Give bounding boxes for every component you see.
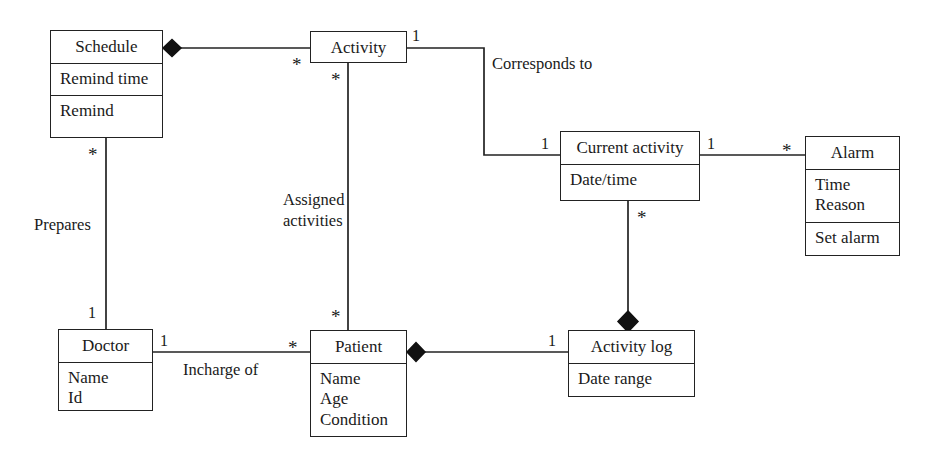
multiplicity-current-activity-right: 1 xyxy=(707,136,715,152)
class-box-schedule[interactable]: Schedule Remind time Remind xyxy=(50,30,163,138)
class-box-doctor[interactable]: Doctor Name Id xyxy=(58,329,153,411)
class-operations-alarm: Set alarm xyxy=(806,222,899,254)
multiplicity-activity-bottom: * xyxy=(331,70,341,89)
class-name-activity-log: Activity log xyxy=(569,331,694,363)
class-name-patient: Patient xyxy=(311,331,406,363)
multiplicity-doctor-top: 1 xyxy=(88,305,96,321)
composition-diamond-patient xyxy=(407,343,425,362)
attribute-age: Age xyxy=(320,389,398,409)
class-attributes-schedule: Remind time xyxy=(51,63,162,95)
attribute-id: Id xyxy=(68,388,144,408)
association-label-corresponds-to: Corresponds to xyxy=(492,54,592,73)
class-name-schedule: Schedule xyxy=(51,31,162,63)
multiplicity-activity-to-schedule: * xyxy=(292,55,302,74)
multiplicity-patient-top: * xyxy=(331,307,341,326)
attribute-remind-time: Remind time xyxy=(60,69,154,89)
multiplicity-schedule-bottom: * xyxy=(88,145,98,164)
class-attributes-patient: Name Age Condition xyxy=(311,363,406,436)
class-box-activity-log[interactable]: Activity log Date range xyxy=(568,330,695,397)
class-box-alarm[interactable]: Alarm Time Reason Set alarm xyxy=(805,136,900,256)
class-attributes-activity-log: Date range xyxy=(569,363,694,395)
multiplicity-current-activity-bottom: * xyxy=(637,208,647,227)
attribute-condition: Condition xyxy=(320,410,398,430)
class-operations-schedule: Remind xyxy=(51,95,162,127)
attribute-date-range: Date range xyxy=(578,369,686,389)
operation-remind: Remind xyxy=(60,101,154,121)
multiplicity-activity-right: 1 xyxy=(412,28,420,44)
class-name-current-activity: Current activity xyxy=(561,132,699,164)
multiplicity-current-activity-left: 1 xyxy=(541,136,549,152)
composition-diamond-schedule xyxy=(163,40,181,57)
multiplicity-alarm-left: * xyxy=(782,141,792,160)
class-attributes-doctor: Name Id xyxy=(59,362,152,415)
composition-diamond-activity-log xyxy=(618,311,638,332)
uml-class-diagram: Schedule Remind time Remind Activity Cur… xyxy=(0,0,937,464)
attribute-name: Name xyxy=(320,369,398,389)
class-attributes-current-activity: Date/time xyxy=(561,164,699,196)
multiplicity-doctor-right: 1 xyxy=(160,333,168,349)
attribute-name: Name xyxy=(68,368,144,388)
multiplicity-activity-log-left: 1 xyxy=(548,333,556,349)
class-name-doctor: Doctor xyxy=(59,330,152,362)
class-name-alarm: Alarm xyxy=(806,137,899,169)
class-box-current-activity[interactable]: Current activity Date/time xyxy=(560,131,700,201)
association-label-incharge-of: Incharge of xyxy=(183,360,258,379)
attribute-reason: Reason xyxy=(815,195,891,215)
association-label-assigned-activities-line2: activities xyxy=(283,211,343,230)
class-box-activity[interactable]: Activity xyxy=(310,31,407,63)
association-label-assigned-activities-line1: Assigned xyxy=(283,190,344,209)
attribute-date-time: Date/time xyxy=(570,170,691,190)
class-name-activity: Activity xyxy=(311,32,406,64)
multiplicity-patient-left: * xyxy=(288,338,298,357)
class-attributes-alarm: Time Reason xyxy=(806,169,899,222)
attribute-time: Time xyxy=(815,175,891,195)
operation-set-alarm: Set alarm xyxy=(815,228,891,248)
class-box-patient[interactable]: Patient Name Age Condition xyxy=(310,330,407,437)
association-label-prepares: Prepares xyxy=(34,215,91,234)
